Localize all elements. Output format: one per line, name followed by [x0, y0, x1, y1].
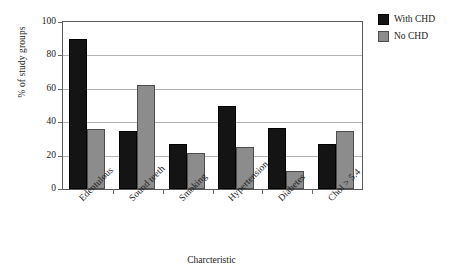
bar	[318, 144, 336, 189]
bar	[69, 39, 87, 189]
x-axis-title: Charcteristic	[62, 255, 361, 265]
bar-group	[69, 22, 105, 189]
x-axis-tick-labels: EdentulousSound teethSmokingHypertension…	[62, 188, 361, 248]
bar-group	[218, 22, 254, 189]
legend-label: No CHD	[394, 31, 428, 42]
y-axis-tick-label: 40	[32, 116, 56, 126]
legend-entry: No CHD	[378, 31, 458, 42]
bar	[218, 106, 236, 190]
bar	[169, 144, 187, 189]
bar-group	[119, 22, 155, 189]
y-axis-tick-label: 60	[32, 83, 56, 93]
black-square-swatch	[378, 14, 389, 25]
bar-chart-figure: % of study groups 020406080100 Edentulou…	[0, 0, 458, 276]
gray-square-swatch	[378, 31, 389, 42]
legend-label: With CHD	[394, 14, 435, 25]
bar-group	[268, 22, 304, 189]
y-axis-tick-label: 100	[32, 16, 56, 26]
y-axis-tick-label: 20	[32, 150, 56, 160]
legend-entry: With CHD	[378, 14, 458, 25]
chart-legend: With CHDNo CHD	[378, 14, 458, 48]
bar	[119, 131, 137, 189]
y-axis-tick-label: 80	[32, 49, 56, 59]
y-axis-tick-label: 0	[32, 183, 56, 193]
bar-group	[318, 22, 354, 189]
bar-group	[169, 22, 205, 189]
y-axis-tick-labels: 020406080100	[30, 0, 56, 276]
bar	[268, 128, 286, 189]
y-axis-title: % of study groups	[17, 0, 27, 132]
